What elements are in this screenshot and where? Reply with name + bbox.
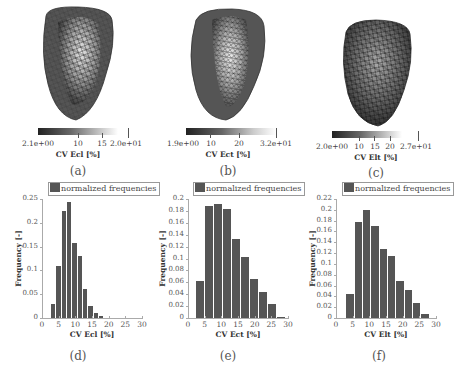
y-tick-mark	[334, 296, 337, 297]
y-tick-label: 0.12	[302, 248, 332, 256]
x-tick-mark	[419, 316, 420, 319]
x-tick-label: 25	[415, 320, 425, 329]
y-tick-label: 0.16	[302, 226, 332, 234]
histogram-bar	[404, 290, 412, 318]
x-tick-mark	[353, 316, 354, 319]
x-tick-mark	[436, 316, 437, 319]
y-tick-label: 0.08	[302, 270, 332, 278]
x-tick-label: 0	[334, 320, 339, 329]
y-tick-mark	[334, 264, 337, 265]
y-tick-mark	[334, 221, 337, 222]
histogram-bar	[387, 256, 395, 318]
histogram-bar	[345, 294, 353, 318]
histogram-bar	[370, 226, 378, 318]
y-tick-label: 0.1	[302, 259, 332, 267]
y-tick-mark	[334, 275, 337, 276]
y-axis-label: Frequency [-]	[308, 228, 317, 288]
y-tick-mark	[334, 286, 337, 287]
y-tick-mark	[334, 253, 337, 254]
y-tick-mark	[334, 231, 337, 232]
x-tick-label: 20	[398, 320, 408, 329]
histogram-bar	[395, 281, 403, 318]
y-tick-label: 0.14	[302, 237, 332, 245]
x-tick-label: 15	[381, 320, 391, 329]
y-tick-label: 0.06	[302, 281, 332, 289]
x-tick-mark	[336, 316, 337, 319]
legend-label: normalized frequencies	[355, 184, 450, 193]
y-tick-label: 0	[302, 313, 332, 321]
y-tick-mark	[334, 307, 337, 308]
y-tick-mark	[334, 199, 337, 200]
y-tick-label: 0.2	[302, 205, 332, 213]
x-tick-label: 10	[365, 320, 375, 329]
y-tick-mark	[334, 242, 337, 243]
y-tick-label: 0.18	[302, 216, 332, 224]
y-tick-label: 0.04	[302, 291, 332, 299]
legend: normalized frequencies	[342, 182, 454, 196]
x-tick-mark	[386, 316, 387, 319]
panel-caption: (f)	[372, 349, 386, 363]
x-tick-label: 30	[431, 320, 441, 329]
histogram-bar	[354, 222, 362, 318]
y-tick-mark	[334, 210, 337, 211]
x-tick-label: 5	[350, 320, 355, 329]
histogram-bar	[362, 210, 370, 318]
x-axis-label: CV Elt [%]	[364, 330, 407, 339]
y-tick-label: 0.02	[302, 302, 332, 310]
histogram-f: normalized frequencies00.020.040.060.080…	[0, 0, 456, 380]
histogram-bar	[420, 314, 428, 318]
x-tick-mark	[403, 316, 404, 319]
x-tick-mark	[369, 316, 370, 319]
y-tick-label: 0.22	[302, 194, 332, 202]
plot-area	[336, 199, 437, 319]
histogram-bar	[379, 249, 387, 318]
legend-swatch	[344, 183, 354, 192]
